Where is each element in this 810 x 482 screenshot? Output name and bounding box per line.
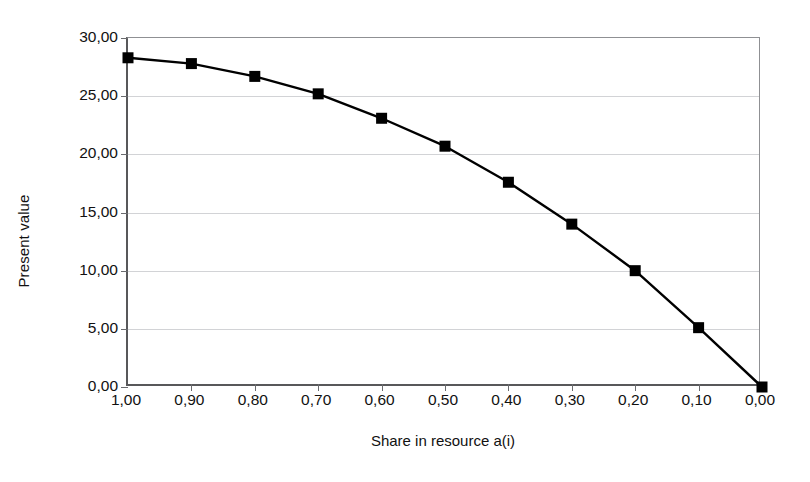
x-axis-title: Share in resource a(i) <box>126 432 760 449</box>
y-axis-tick-mark <box>121 271 128 272</box>
data-point-marker <box>693 322 704 333</box>
data-point-marker <box>630 265 641 276</box>
data-point-marker <box>566 219 577 230</box>
data-series-layer <box>128 38 762 387</box>
y-axis-tick-label-group: 30,0025,0020,0015,0010,005,000,00 <box>46 0 118 482</box>
x-axis-tick-label-group: 1,000,900,800,700,600,500,400,300,200,10… <box>126 392 760 420</box>
y-axis-tick-mark <box>121 213 128 214</box>
series-marker-group <box>123 52 768 392</box>
y-axis-tick-label: 20,00 <box>46 146 118 162</box>
data-point-marker <box>440 141 451 152</box>
y-axis-title: Present value <box>0 0 46 482</box>
data-point-marker <box>186 58 197 69</box>
series-line-present-value <box>128 58 762 387</box>
data-point-marker <box>123 52 134 63</box>
y-axis-tick-label: 25,00 <box>46 87 118 103</box>
y-axis-tick-label: 5,00 <box>46 320 118 336</box>
y-axis-tick-label: 10,00 <box>46 262 118 278</box>
y-axis-tick-mark <box>121 329 128 330</box>
plot-area <box>126 37 760 386</box>
y-axis-tick-mark <box>121 154 128 155</box>
x-axis-tick-label: 0,00 <box>720 392 800 408</box>
y-axis-tick-mark <box>121 387 128 388</box>
y-axis-tick-label: 30,00 <box>46 29 118 45</box>
data-point-marker <box>503 177 514 188</box>
y-axis-tick-mark <box>121 96 128 97</box>
y-axis-tick-label: 15,00 <box>46 204 118 220</box>
data-point-marker <box>313 88 324 99</box>
chart-container: Present value 30,0025,0020,0015,0010,005… <box>0 0 810 482</box>
data-point-marker <box>249 71 260 82</box>
y-axis-tick-mark <box>121 38 128 39</box>
data-point-marker <box>376 113 387 124</box>
